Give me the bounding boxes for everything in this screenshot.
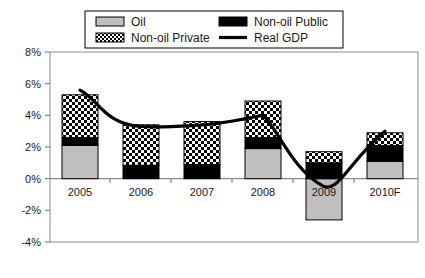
bar-segment-non-oil-private-2006: [123, 125, 159, 165]
legend-label-non-oil-private: Non-oil Private: [131, 31, 210, 45]
bar-segment-non-oil-public-2010F: [367, 146, 403, 162]
legend-label-non-oil-public: Non-oil Public: [254, 15, 328, 29]
y-axis-label-8: 8%: [25, 46, 41, 58]
non-oil-private-swatch-icon: [96, 33, 124, 42]
y-axis-label-4: 4%: [25, 109, 41, 121]
legend: Oil Non-oil Public Non-oil Private Real …: [85, 11, 343, 48]
x-axis-label-2006: 2006: [129, 186, 153, 198]
bar-segment-non-oil-private-2007: [184, 122, 220, 165]
gdp-contributions-chart: 8% 6% 4% 2% 0% -2% -4%: [0, 0, 425, 278]
bar-stack-2007: [184, 122, 220, 179]
legend-label-real-gdp: Real GDP: [254, 31, 308, 45]
bar-segment-oil-2008: [245, 149, 281, 179]
y-axis-label-0: 0%: [25, 173, 41, 185]
y-axis-label-2: 2%: [25, 141, 41, 153]
x-axis-label-2009: 2009: [312, 186, 336, 198]
bar-segment-non-oil-private-2009: [306, 152, 342, 163]
oil-swatch-icon: [96, 17, 124, 26]
x-axis-label-2010F: 2010F: [369, 186, 400, 198]
y-axis-label-6: 6%: [25, 78, 41, 90]
bar-segment-non-oil-public-2006: [123, 165, 159, 179]
chart-container: 8% 6% 4% 2% 0% -2% -4%: [0, 0, 425, 278]
bar-stack-2010F: [367, 133, 403, 179]
bar-stack-2006: [123, 125, 159, 179]
legend-label-oil: Oil: [131, 15, 146, 29]
x-axis-label-2005: 2005: [68, 186, 92, 198]
y-axis-label-neg4: -4%: [21, 236, 41, 248]
bar-segment-non-oil-public-2005: [62, 138, 98, 146]
x-axis-label-2008: 2008: [251, 186, 275, 198]
y-axis-label-neg2: -2%: [21, 204, 41, 216]
bar-stack-2008: [245, 101, 281, 179]
bar-stack-2005: [62, 95, 98, 179]
bar-segment-oil-2010F: [367, 161, 403, 178]
non-oil-public-swatch-icon: [219, 17, 247, 26]
x-axis-label-2007: 2007: [190, 186, 214, 198]
bar-segment-oil-2005: [62, 146, 98, 179]
bar-segment-non-oil-public-2008: [245, 138, 281, 149]
bar-segment-non-oil-public-2007: [184, 164, 220, 178]
